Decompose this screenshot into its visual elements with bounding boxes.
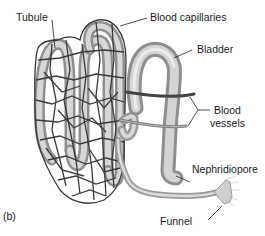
- blood-capillaries-label: Blood capillaries: [150, 11, 226, 23]
- blood-vessels-label-line2: vessels: [210, 117, 245, 129]
- blood-vessels-label-line1: Blood: [214, 104, 241, 116]
- panel-label: (b): [3, 210, 16, 222]
- tubule-label: Tubule: [16, 11, 48, 23]
- bladder: [134, 49, 176, 178]
- blood-capillaries-leader: [120, 18, 147, 26]
- funnel-leader: [208, 206, 222, 220]
- bladder-label: Bladder: [197, 43, 233, 55]
- funnel: [214, 176, 240, 206]
- blood-vessels-leader: [188, 97, 210, 126]
- funnel-label: Funnel: [160, 215, 192, 227]
- nephridiopore-label: Nephridiopore: [192, 163, 258, 175]
- nephridium-diagram: Tubule Blood capillaries Bladder Blood v…: [0, 0, 265, 236]
